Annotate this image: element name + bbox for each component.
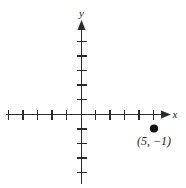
y-axis-group: y [77,7,87,184]
x-axis-arrowhead [161,111,171,119]
y-axis-label: y [78,7,84,19]
data-point-marker [150,124,158,132]
plotted-point-group: (5, −1) [137,124,171,148]
coordinate-axes-svg: x y (5, −1) [0,0,186,188]
x-axis-group: x [6,108,178,120]
coordinate-plane-figure: x y (5, −1) [0,0,186,188]
data-point-label: (5, −1) [137,134,171,148]
y-axis-arrowhead [78,20,86,30]
x-axis-label: x [172,108,178,120]
